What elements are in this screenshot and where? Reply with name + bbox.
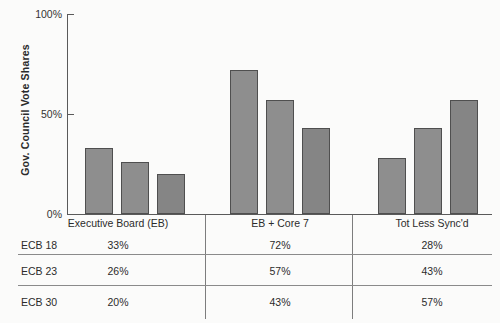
bar-core7-ecb18 bbox=[230, 70, 258, 214]
bar-group-tot-less-syncd bbox=[378, 14, 482, 214]
table-rule-2 bbox=[18, 285, 492, 286]
bar-eb-ecb30 bbox=[157, 174, 185, 214]
table-rule-1 bbox=[18, 254, 492, 255]
table-cell-r2c2: 57% bbox=[421, 296, 442, 308]
table-row-label-2: ECB 30 bbox=[21, 296, 57, 308]
bar-group-eb-core7 bbox=[230, 14, 334, 214]
bar-core7-ecb23 bbox=[266, 100, 294, 214]
table-cell-r1c2: 43% bbox=[421, 265, 442, 277]
table-col-header-0: Executive Board (EB) bbox=[68, 217, 168, 229]
table-cell-r2c0: 20% bbox=[107, 296, 128, 308]
table-row-label-1: ECB 23 bbox=[21, 265, 57, 277]
table-cell-r0c1: 72% bbox=[269, 239, 290, 251]
plot-area bbox=[67, 14, 492, 214]
bar-core7-ecb30 bbox=[302, 128, 330, 214]
table-col-header-2: Tot Less Sync'd bbox=[395, 217, 468, 229]
bar-chart-figure: Gov. Council Vote Shares 100% 50% 0% bbox=[0, 0, 500, 323]
bar-tot-ecb23 bbox=[414, 128, 442, 214]
table-cell-r1c0: 26% bbox=[107, 265, 128, 277]
bar-tot-ecb18 bbox=[378, 158, 406, 214]
bar-eb-ecb18 bbox=[85, 148, 113, 214]
table-cell-r0c0: 33% bbox=[107, 239, 128, 251]
table-row-label-0: ECB 18 bbox=[21, 239, 57, 251]
bar-group-executive-board bbox=[85, 14, 189, 214]
bar-tot-ecb30 bbox=[450, 100, 478, 214]
table-cell-r0c2: 28% bbox=[421, 239, 442, 251]
table-column-separator-1 bbox=[205, 215, 206, 319]
table-column-separator-2 bbox=[352, 215, 353, 319]
y-tick-label-100: 100% bbox=[18, 8, 62, 20]
table-cell-r2c1: 43% bbox=[269, 296, 290, 308]
table-col-header-1: EB + Core 7 bbox=[251, 217, 309, 229]
data-table: Executive Board (EB) EB + Core 7 Tot Les… bbox=[18, 215, 492, 319]
table-cell-r1c1: 57% bbox=[269, 265, 290, 277]
bar-eb-ecb23 bbox=[121, 162, 149, 214]
y-tick-label-50: 50% bbox=[18, 108, 62, 120]
